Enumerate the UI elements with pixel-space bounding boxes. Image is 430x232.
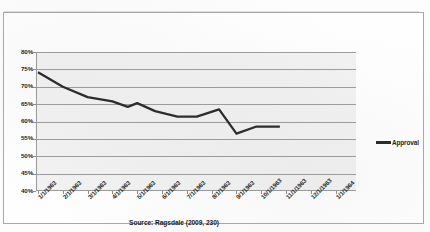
- legend-swatch-approval: [376, 141, 391, 143]
- chart-frame: 80%75%70%65%60%55%50%45%40% 1/1/19632/1/…: [3, 12, 424, 224]
- source-caption: Source: Ragsdale (2009, 230): [4, 219, 344, 226]
- legend-label-approval: Approval: [392, 139, 419, 146]
- series-line-approval: [38, 72, 280, 134]
- y-axis-tick-label: 70%: [7, 83, 33, 89]
- series-approval-line: [36, 52, 356, 191]
- plot-area-wrapper: [36, 52, 356, 191]
- y-axis-tick-label: 50%: [7, 153, 33, 159]
- y-axis-tick-label: 80%: [7, 49, 33, 55]
- y-axis-tick-label: 45%: [7, 170, 33, 176]
- y-axis-tick-label: 75%: [7, 66, 33, 72]
- y-axis-tick-label: 60%: [7, 118, 33, 124]
- y-axis-tick-label: 40%: [7, 188, 33, 194]
- y-axis-tick-label: 65%: [7, 101, 33, 107]
- chart-legend: Approval: [376, 139, 419, 146]
- y-axis-tick-label: 55%: [7, 135, 33, 141]
- chart-page: 80%75%70%65%60%55%50%45%40% 1/1/19632/1/…: [0, 0, 430, 232]
- y-axis: 80%75%70%65%60%55%50%45%40%: [4, 52, 33, 191]
